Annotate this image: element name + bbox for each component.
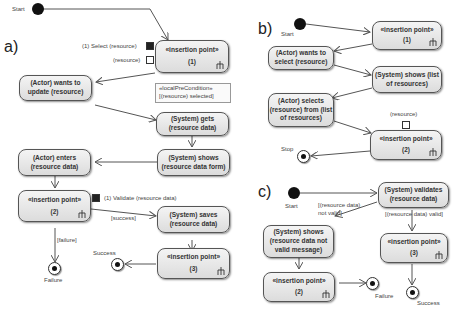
action-actor-wants-select[interactable]: (Actor) wants to select (resource) (268, 46, 334, 70)
action-system-shows-not-valid[interactable]: (System) shows (resource data not valid … (263, 225, 334, 258)
node-title: «insertion point» (272, 277, 325, 286)
guard-failure: [failure] (57, 237, 77, 243)
action-actor-enters[interactable]: (Actor) enters (resource data) (18, 149, 91, 176)
pin-label-validate: (1) Validate (resource data) (104, 195, 177, 201)
initial-node[interactable] (288, 187, 300, 199)
rake-icon (435, 251, 443, 259)
rake-icon (429, 38, 437, 46)
start-label: Start (281, 31, 294, 37)
node-title: «insertion point» (379, 135, 432, 144)
final-label-success: Success (417, 300, 440, 306)
pin-label-select: (1) Select (resource) (82, 43, 137, 49)
node-number: (3) (410, 249, 418, 258)
final-node-success[interactable] (111, 258, 124, 271)
output-pin-resource[interactable] (146, 56, 154, 64)
insertion-point-2[interactable]: «insertion point» (2) (18, 190, 91, 222)
input-pin-resource[interactable] (402, 121, 410, 129)
final-node-failure[interactable] (48, 262, 61, 275)
node-title: «insertion point» (167, 253, 220, 262)
action-system-validates[interactable]: (System) validates (resource data) (378, 182, 449, 208)
output-pin-select[interactable] (146, 42, 154, 50)
rake-icon (216, 61, 224, 69)
initial-node[interactable] (32, 3, 44, 15)
panel-a-label: a) (4, 38, 18, 56)
node-number: (3) (190, 265, 198, 274)
node-title: «insertion point» (28, 196, 81, 205)
node-number: (1) (403, 36, 411, 45)
insertion-point-2[interactable]: «insertion point» (2) (263, 272, 335, 302)
insertion-point-1[interactable]: «insertion point» (1) (155, 40, 229, 73)
final-label-failure: Failure (44, 277, 62, 283)
insertion-point-1[interactable]: «insertion point» (1) (372, 21, 442, 50)
node-number: (1) (188, 58, 196, 67)
node-number: (2) (402, 146, 410, 155)
action-system-saves[interactable]: (System) saves (resource data) (157, 206, 230, 233)
pin-label-resource: (resource) (390, 111, 417, 117)
node-title: «insertion point» (387, 238, 440, 247)
node-number: (2) (295, 288, 303, 297)
final-node-failure[interactable] (366, 277, 379, 290)
rake-icon (429, 148, 437, 156)
panel-c-label: c) (258, 183, 271, 201)
insertion-point-2[interactable]: «insertion point» (2) (370, 130, 442, 160)
guard-not-valid: [(resource data) not valid] (318, 201, 366, 217)
insertion-point-3[interactable]: «insertion point» (3) (380, 233, 448, 263)
action-actor-selects[interactable]: (Actor) selects (resource) from (list of… (268, 93, 334, 127)
final-node-stop[interactable] (297, 150, 310, 163)
local-precondition-note: «localPreCondition» [(resource) selected… (155, 83, 231, 103)
start-label: Start (12, 6, 25, 12)
action-system-gets[interactable]: (System) gets (resource data) (156, 112, 229, 136)
rake-icon (217, 267, 225, 275)
final-label-stop: Stop (281, 146, 293, 152)
action-system-shows-list[interactable]: (System) shows (list of resources) (372, 66, 442, 93)
action-system-shows-form[interactable]: (System) shows (resource data form) (157, 149, 230, 176)
final-label-success: Success (93, 250, 116, 256)
final-node-success[interactable] (406, 286, 419, 299)
action-actor-wants-update[interactable]: (Actor) wants to update (resource) (19, 75, 92, 101)
guard-success: [success] (111, 215, 136, 221)
final-label-failure: Failure (375, 293, 393, 299)
panel-b-label: b) (258, 20, 272, 38)
node-number: (2) (51, 208, 59, 217)
initial-node[interactable] (294, 18, 306, 30)
guard-valid: [(resource data) valid] (385, 211, 443, 217)
insertion-point-3[interactable]: «insertion point» (3) (157, 248, 230, 279)
output-pin-validate[interactable] (92, 194, 100, 202)
node-title: «insertion point» (165, 46, 218, 55)
start-label: Start (285, 203, 298, 209)
pin-label-resource: (resource) (113, 57, 140, 63)
rake-icon (322, 290, 330, 298)
rake-icon (78, 210, 86, 218)
note-text: [(resource) selected] (159, 93, 227, 101)
node-title: «insertion point» (380, 26, 433, 35)
note-stereotype: «localPreCondition» (159, 85, 227, 93)
